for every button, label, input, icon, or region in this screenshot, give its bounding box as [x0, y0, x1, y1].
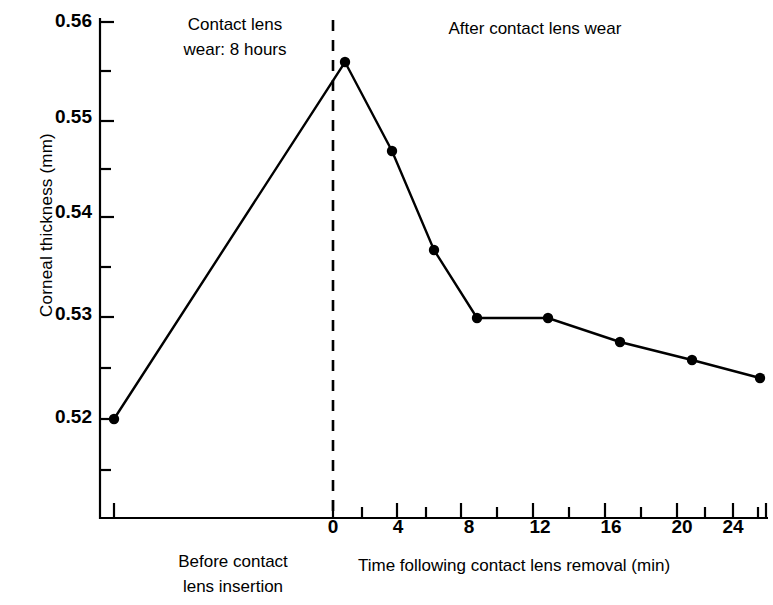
data-point: [387, 146, 397, 156]
x-tick-label-24: 24: [711, 516, 755, 538]
data-point: [429, 245, 439, 255]
x-ticks: [114, 500, 766, 518]
data-point: [755, 373, 765, 383]
data-line-corneal-thickness: [114, 62, 760, 419]
y-major-ticks: [100, 22, 114, 419]
data-point: [472, 313, 482, 323]
data-markers: [109, 57, 765, 424]
chart-figure: Corneal thickness (mm) 0.56 0.55 0.54 0.…: [0, 0, 773, 605]
data-point: [543, 313, 553, 323]
y-minor-ticks: [100, 71, 111, 470]
data-point: [615, 337, 625, 347]
chart-plot-area: [0, 0, 773, 605]
data-point: [340, 57, 350, 67]
data-point: [687, 355, 697, 365]
data-point: [109, 414, 119, 424]
